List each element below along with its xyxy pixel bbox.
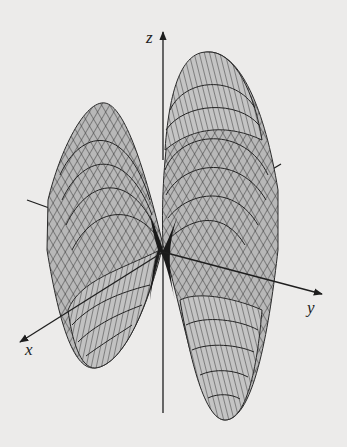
surface-plot — [0, 0, 347, 447]
x-axis-label: x — [25, 341, 33, 358]
left-lobe — [47, 103, 163, 368]
y-axis-label: y — [307, 299, 315, 316]
saddle-surface-figure: z x y — [0, 0, 347, 447]
z-axis-label: z — [146, 29, 153, 46]
right-lobe — [163, 52, 278, 420]
